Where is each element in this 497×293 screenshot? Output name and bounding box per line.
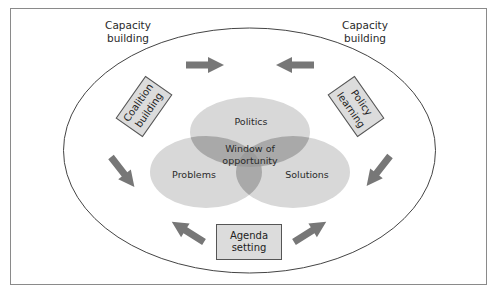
label-line: Capacity [335, 19, 395, 32]
box-line: setting [230, 242, 268, 255]
problems-label: Problems [172, 169, 216, 181]
capacity-building-label-right: Capacity building [335, 19, 395, 45]
politics-label: Politics [234, 116, 267, 128]
arrow-bottom-right-icon [290, 215, 331, 249]
solutions-label: Solutions [285, 169, 329, 181]
capacity-building-label-left: Capacity building [98, 19, 158, 45]
box-line: Agenda [230, 230, 268, 243]
label-line: opportunity [222, 155, 277, 167]
arrow-left-down-icon [105, 152, 141, 192]
window-of-opportunity-label: Window of opportunity [222, 143, 277, 167]
arrow-top-left-icon [276, 57, 314, 73]
arrow-bottom-left-icon [168, 215, 209, 249]
label-line: building [335, 32, 395, 45]
label-line: Window of [222, 143, 277, 155]
label-line: Capacity [98, 19, 158, 32]
label-line: building [98, 32, 158, 45]
agenda-setting-box: Agenda setting [216, 224, 282, 260]
arrow-top-right-icon [186, 57, 224, 73]
arrow-right-down-icon [360, 151, 396, 191]
